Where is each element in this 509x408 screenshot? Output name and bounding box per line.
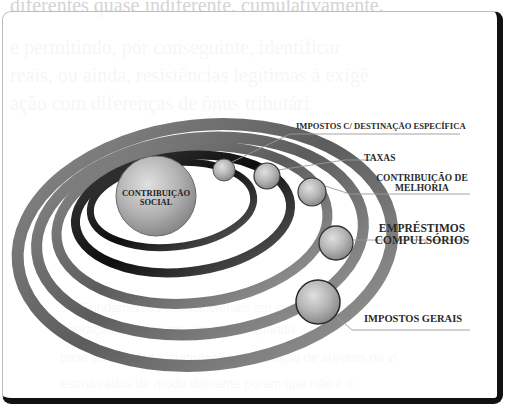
center-label-line2: SOCIAL [112,198,200,207]
sphere-contribuicao-melhoria [298,178,326,206]
label-emprestimos-compulsorios: EMPRÉSTIMOS COMPULSÓRIOS [372,222,472,246]
sphere-emprestimos [319,226,353,260]
sphere-impostos-destinacao [213,159,235,181]
sphere-taxas [254,163,280,189]
sphere-impostos-gerais [296,280,340,324]
orbit-diagram [0,0,509,408]
center-label: CONTRIBUIÇÃO SOCIAL [112,189,200,207]
label-contribuicao-melhoria: CONTRIBUIÇÃO DE MELHORIA [372,174,472,194]
label-impostos-gerais: IMPOSTOS GERAIS [364,313,462,324]
label-taxas: TAXAS [364,154,396,164]
label-line: EMPRÉSTIMOS [372,222,472,234]
label-line: MELHORIA [372,184,472,194]
label-impostos-destinacao: IMPOSTOS C/ DESTINAÇÃO ESPECÍFICA [296,122,466,131]
label-line: COMPULSÓRIOS [372,234,472,246]
